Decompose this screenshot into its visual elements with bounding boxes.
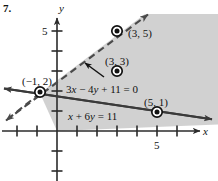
equation-solid-line: x + 6y = 11 <box>68 110 117 122</box>
point-label-3-5: (3, 5) <box>128 28 152 39</box>
eq1-mid: − 4 <box>76 83 93 95</box>
point-3-5 <box>112 26 122 36</box>
y-axis-label: y <box>59 3 64 14</box>
point-3-3 <box>112 66 122 76</box>
x-axis-label: x <box>203 126 208 137</box>
eq1-tail: + 11 = 0 <box>99 83 139 95</box>
point-5-1 <box>152 107 162 117</box>
eq2-tail: = 11 <box>95 110 117 122</box>
eq2-mid: + 6 <box>73 110 90 122</box>
point-label-5-1: (5, 1) <box>144 97 168 108</box>
x-tick-label-5: 5 <box>154 140 160 151</box>
point-label-minus1-2: (−1, 2) <box>22 76 52 87</box>
point-minus1-2 <box>35 87 45 97</box>
equation-dashed-line: 3x − 4y + 11 = 0 <box>66 83 138 95</box>
point-label-3-3: (3, 3) <box>105 56 129 67</box>
y-tick-label-5: 5 <box>42 26 48 37</box>
